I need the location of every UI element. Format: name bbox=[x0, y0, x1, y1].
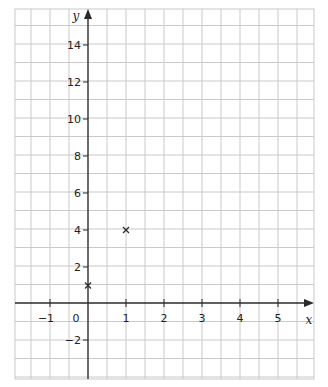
x-tick-label: 5 bbox=[275, 312, 282, 325]
x-tick-label: 1 bbox=[123, 312, 130, 325]
x-tick-label: 4 bbox=[237, 312, 244, 325]
y-tick-label: 4 bbox=[74, 224, 81, 237]
y-tick-label: 12 bbox=[67, 76, 81, 89]
x-tick-label: −1 bbox=[38, 312, 54, 325]
x-axis-arrow-icon bbox=[304, 299, 314, 307]
x-tick-label: 3 bbox=[199, 312, 206, 325]
y-axis-label: y bbox=[72, 9, 80, 23]
y-tick-label: 6 bbox=[74, 187, 81, 200]
y-tick-label: 8 bbox=[74, 150, 81, 163]
x-tick-label: 2 bbox=[161, 312, 168, 325]
origin-label: 0 bbox=[73, 312, 80, 325]
y-tick-label: 2 bbox=[74, 261, 81, 274]
coordinate-grid: −1 0 1 2 3 4 5 x 14 12 10 8 6 4 2 −2 y bbox=[0, 0, 328, 387]
y-tick-label: 10 bbox=[67, 113, 81, 126]
y-tick-label: −2 bbox=[65, 334, 81, 347]
y-axis-arrow-icon bbox=[84, 9, 92, 19]
y-tick-label: 14 bbox=[67, 39, 81, 52]
x-axis-label: x bbox=[306, 313, 313, 327]
